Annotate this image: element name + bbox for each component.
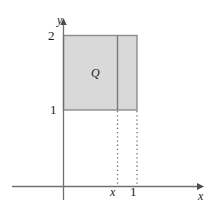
y-tick-label-2: 2	[48, 29, 55, 42]
x-axis-label: x	[198, 190, 203, 202]
x-tick-label-1: 1	[130, 185, 137, 198]
coordinate-plane-svg	[0, 0, 217, 210]
y-axis-label: y	[57, 14, 62, 26]
region-q-rect	[64, 36, 138, 111]
figure-diagram: y x 2 1 x 1 Q	[0, 0, 217, 210]
x-tick-label-x: x	[110, 186, 115, 198]
region-q-label: Q	[91, 67, 100, 79]
y-tick-label-1: 1	[50, 103, 57, 116]
